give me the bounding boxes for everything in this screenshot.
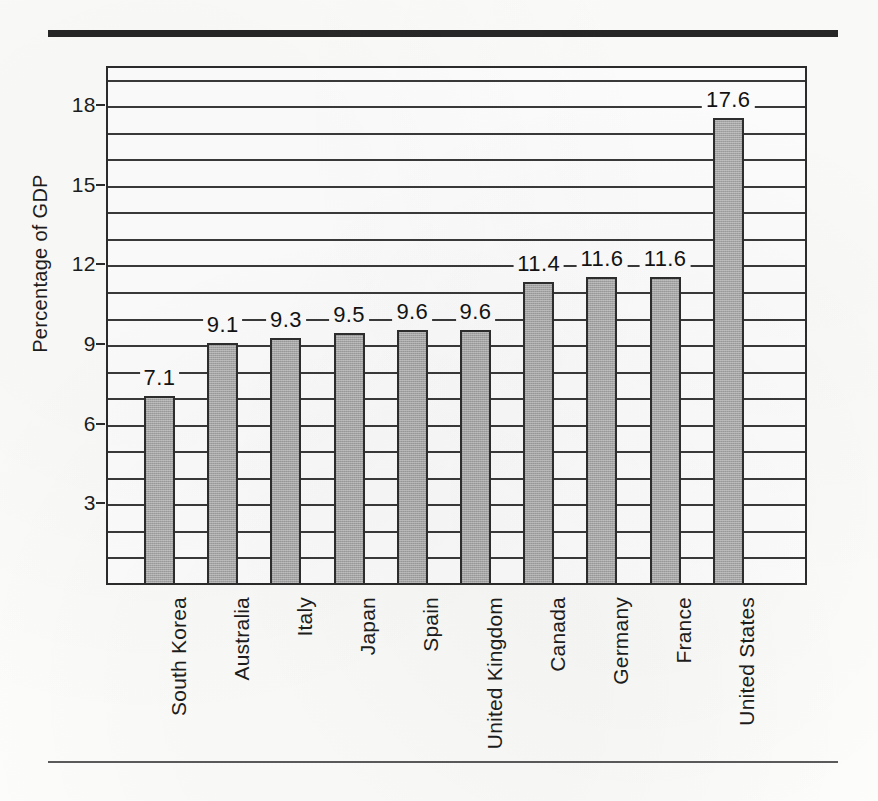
bar xyxy=(144,396,175,585)
bar xyxy=(334,333,365,585)
x-axis-category-label: Italy xyxy=(293,597,317,637)
y-axis-tick-label: 18 xyxy=(72,94,96,115)
plot-area: 7.19.19.39.59.69.611.411.611.617.6 xyxy=(106,66,807,585)
bar-value-label: 11.6 xyxy=(576,247,627,273)
x-axis-category-label: Spain xyxy=(419,597,443,652)
x-axis-category-label: Australia xyxy=(230,597,254,681)
bar-value-label: 11.6 xyxy=(640,247,691,273)
bar-value-label: 9.6 xyxy=(456,300,496,326)
y-axis-tick-label: 9 xyxy=(84,333,96,354)
y-axis-tick-mark xyxy=(96,502,105,504)
bottom-divider-rule xyxy=(48,761,838,763)
top-divider-rule xyxy=(48,30,838,37)
bar xyxy=(207,343,238,585)
x-axis-category-label: Germany xyxy=(609,597,633,685)
x-axis-category-label: United States xyxy=(735,597,759,726)
gridline xyxy=(108,265,805,267)
x-axis-category-label: France xyxy=(672,597,696,664)
y-axis-tick-mark xyxy=(96,263,105,265)
bar-value-label: 9.5 xyxy=(329,303,369,329)
gridline xyxy=(108,212,805,214)
x-axis-category-label: United Kingdom xyxy=(483,597,507,749)
bar-value-label: 17.6 xyxy=(702,88,754,114)
bar-value-label: 11.4 xyxy=(513,252,564,278)
bar xyxy=(650,277,681,585)
y-axis-tick-label: 15 xyxy=(72,174,96,195)
bar xyxy=(397,330,428,585)
y-axis-tick-labels: 181512963 xyxy=(62,66,96,585)
bar-value-label: 7.1 xyxy=(140,366,180,392)
bar-value-label: 9.3 xyxy=(266,308,306,334)
y-axis-tick-label: 12 xyxy=(72,253,96,274)
y-axis-tick-label: 3 xyxy=(84,492,96,513)
gridline xyxy=(108,186,805,188)
bar xyxy=(713,118,744,585)
x-axis-category-label: Canada xyxy=(546,597,570,672)
gridline xyxy=(108,106,805,108)
bar xyxy=(270,338,301,585)
bar xyxy=(523,282,554,585)
y-axis-tick-mark xyxy=(96,343,105,345)
y-axis-title: Percentage of GDP xyxy=(29,164,52,364)
chart-page: 7.19.19.39.59.69.611.411.611.617.6 18151… xyxy=(0,0,878,801)
gridline xyxy=(108,133,805,135)
gridline xyxy=(108,159,805,161)
y-axis-tick-mark xyxy=(96,423,105,425)
y-axis-tick-mark xyxy=(96,104,105,106)
bar xyxy=(586,277,617,585)
y-axis-tick-mark xyxy=(96,184,105,186)
gridline xyxy=(108,239,805,241)
x-axis-category-label: Japan xyxy=(356,597,380,655)
x-axis-category-label: South Korea xyxy=(167,597,191,716)
bar-value-label: 9.1 xyxy=(203,313,243,339)
x-axis-category-labels: South KoreaAustraliaItalyJapanSpainUnite… xyxy=(106,585,807,760)
gridline xyxy=(108,80,805,82)
gridline xyxy=(108,292,805,294)
bar-value-label: 9.6 xyxy=(392,300,432,326)
bar xyxy=(460,330,491,585)
y-axis-tick-label: 6 xyxy=(84,413,96,434)
